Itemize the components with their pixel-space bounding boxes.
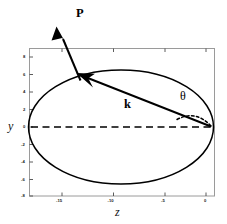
x-axis-label: z (115, 206, 120, 218)
y-tick-label-neg2: -2 (21, 143, 25, 147)
y-tick-label-4: 4 (23, 90, 25, 94)
x-tick-label-0: 0 (204, 199, 206, 203)
y-tick-label-6: 6 (23, 73, 25, 77)
y-tick-label-8: 8 (23, 55, 25, 59)
ellipse-wave-vector-figure: 8 6 4 2 0 -2 -4 -6 -8 -15 -10 -5 0 y z P… (0, 0, 227, 224)
y-tick-label-neg8: -8 (21, 194, 25, 198)
wave-vector-label: k (124, 98, 131, 111)
x-tick-label-neg5: -5 (161, 199, 165, 203)
plot-canvas (0, 0, 227, 224)
y-tick-label-0: 0 (23, 125, 25, 129)
y-axis-label: y (8, 120, 13, 132)
polarization-vector-P-shaft (63, 39, 81, 81)
wave-vector-k-shaft (84, 77, 211, 127)
x-tick-label-neg10: -10 (108, 199, 114, 203)
x-tick-label-neg15: -15 (56, 199, 62, 203)
polarization-vector-label: P (76, 7, 84, 20)
y-tick-label-neg6: -6 (21, 178, 25, 182)
y-tick-label-2: 2 (23, 108, 25, 112)
y-tick-label-neg4: -4 (21, 160, 25, 164)
angle-theta-label: θ (180, 90, 186, 102)
